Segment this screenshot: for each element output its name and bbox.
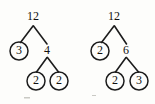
factor-trees-canvas: 12 3 4 2 2 bbox=[0, 0, 155, 104]
node-right-circled-2: 2 bbox=[91, 42, 109, 60]
node-left-circled-2-b: 2 bbox=[50, 72, 68, 90]
right-factor-tree: 12 2 6 2 3 bbox=[91, 9, 148, 90]
node-right-6: 6 bbox=[123, 43, 129, 57]
node-left-3-label: 3 bbox=[16, 43, 22, 57]
scan-speck bbox=[24, 97, 30, 99]
edge-right-root-to-2 bbox=[102, 26, 115, 43]
node-right-2-label: 2 bbox=[97, 43, 103, 57]
scan-speck bbox=[92, 95, 96, 96]
edge-left-root-to-4 bbox=[34, 26, 48, 44]
node-right-circled-2-b: 2 bbox=[106, 72, 124, 90]
node-left-circled-2-a: 2 bbox=[27, 72, 45, 90]
node-left-root-12: 12 bbox=[27, 9, 39, 23]
left-factor-tree: 12 3 4 2 2 bbox=[10, 9, 68, 90]
node-right-root-12: 12 bbox=[108, 9, 120, 23]
factor-trees-figure: 12 3 4 2 2 bbox=[0, 0, 155, 104]
edge-left-root-to-3 bbox=[21, 26, 34, 43]
node-right-3-label: 3 bbox=[136, 73, 142, 87]
node-right-circled-3: 3 bbox=[130, 72, 148, 90]
node-left-2b-label: 2 bbox=[56, 73, 62, 87]
node-right-2b-label: 2 bbox=[112, 73, 118, 87]
edge-left-4-to-2b bbox=[48, 58, 59, 73]
edge-right-root-to-6 bbox=[115, 26, 127, 44]
node-left-circled-3: 3 bbox=[10, 42, 28, 60]
edge-right-6-to-2 bbox=[116, 58, 127, 73]
node-left-2a-label: 2 bbox=[33, 73, 39, 87]
edge-right-6-to-3 bbox=[127, 58, 139, 73]
edge-left-4-to-2a bbox=[37, 58, 48, 73]
node-left-4: 4 bbox=[44, 43, 50, 57]
